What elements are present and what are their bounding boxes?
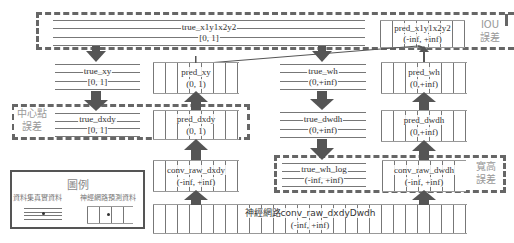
arrow-down-icon <box>310 91 334 110</box>
arrow-up-icon <box>412 92 436 110</box>
arrow-up-icon <box>412 190 436 205</box>
arrow-up-icon <box>184 139 208 160</box>
arrow-up-icon <box>412 140 436 160</box>
arrow-up-icon <box>184 91 208 110</box>
arrow-up-icon <box>184 190 208 205</box>
arrow-up-icon <box>419 46 429 62</box>
arrow-down-icon <box>86 46 106 62</box>
arrow-down-icon <box>312 46 332 62</box>
arrow-down-icon <box>310 139 334 160</box>
arrow-down-icon <box>84 91 108 111</box>
